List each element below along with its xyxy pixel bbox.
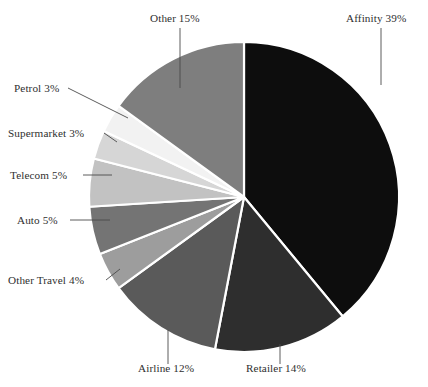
slice-label-supermarket: Supermarket 3% [8, 127, 84, 139]
slice-label-retailer: Retailer 14% [246, 362, 306, 374]
pie-chart-figure: Affinity 39%Retailer 14%Airline 12%Other… [0, 0, 428, 387]
slice-label-petrol: Petrol 3% [14, 82, 59, 94]
leader-line-petrol [68, 88, 128, 118]
slice-label-other-travel: Other Travel 4% [8, 274, 84, 286]
slice-label-airline: Airline 12% [138, 362, 194, 374]
slice-label-auto: Auto 5% [17, 214, 58, 226]
slice-label-telecom: Telecom 5% [10, 169, 67, 181]
pie-chart-canvas: Affinity 39%Retailer 14%Airline 12%Other… [0, 0, 428, 387]
slice-label-other: Other 15% [150, 12, 200, 24]
slice-label-affinity: Affinity 39% [346, 12, 406, 24]
pie-slices-group [89, 42, 399, 352]
